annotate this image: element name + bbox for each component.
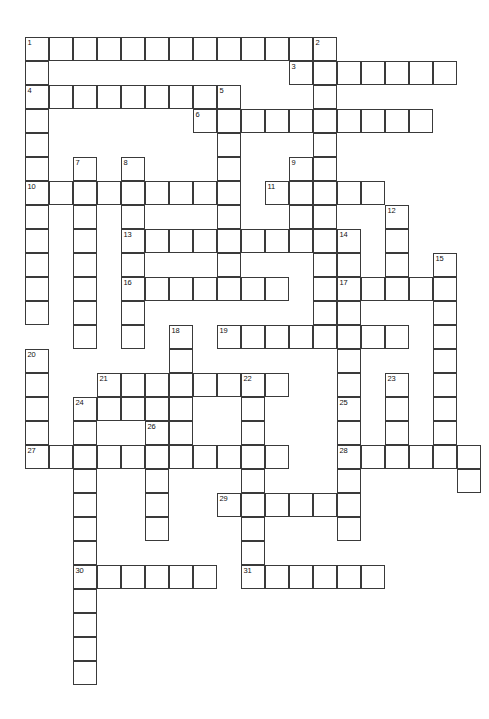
crossword-cell[interactable] <box>289 229 313 253</box>
crossword-cell-numbered-12[interactable]: 12 <box>385 205 409 229</box>
crossword-cell[interactable] <box>337 469 361 493</box>
crossword-cell[interactable] <box>265 109 289 133</box>
crossword-cell-numbered-4[interactable]: 4 <box>25 85 49 109</box>
crossword-cell-numbered-31[interactable]: 31 <box>241 565 265 589</box>
crossword-cell[interactable] <box>337 253 361 277</box>
crossword-cell[interactable] <box>73 325 97 349</box>
crossword-cell[interactable] <box>73 421 97 445</box>
crossword-cell-numbered-2[interactable]: 2 <box>313 37 337 61</box>
crossword-cell[interactable] <box>193 229 217 253</box>
crossword-cell[interactable] <box>25 253 49 277</box>
crossword-cell[interactable] <box>289 205 313 229</box>
crossword-cell[interactable] <box>313 493 337 517</box>
crossword-cell[interactable] <box>289 181 313 205</box>
crossword-cell[interactable] <box>25 421 49 445</box>
crossword-cell[interactable] <box>49 181 73 205</box>
crossword-cell[interactable] <box>289 565 313 589</box>
crossword-cell[interactable] <box>217 373 241 397</box>
crossword-cell-numbered-3[interactable]: 3 <box>289 61 313 85</box>
crossword-cell-numbered-26[interactable]: 26 <box>145 421 169 445</box>
crossword-cell[interactable] <box>145 277 169 301</box>
crossword-cell[interactable] <box>121 325 145 349</box>
crossword-cell[interactable] <box>313 133 337 157</box>
crossword-cell[interactable] <box>121 373 145 397</box>
crossword-cell[interactable] <box>361 325 385 349</box>
crossword-cell[interactable] <box>73 253 97 277</box>
crossword-cell-numbered-27[interactable]: 27 <box>25 445 49 469</box>
crossword-cell[interactable] <box>289 37 313 61</box>
crossword-cell[interactable] <box>73 301 97 325</box>
crossword-cell[interactable] <box>241 37 265 61</box>
crossword-cell[interactable] <box>193 37 217 61</box>
crossword-cell[interactable] <box>433 397 457 421</box>
crossword-cell-numbered-16[interactable]: 16 <box>121 277 145 301</box>
crossword-cell[interactable] <box>169 397 193 421</box>
crossword-cell[interactable] <box>265 277 289 301</box>
crossword-cell[interactable] <box>241 469 265 493</box>
crossword-cell[interactable] <box>433 349 457 373</box>
crossword-cell[interactable] <box>337 61 361 85</box>
crossword-cell[interactable] <box>145 397 169 421</box>
crossword-cell-numbered-17[interactable]: 17 <box>337 277 361 301</box>
crossword-cell[interactable] <box>73 37 97 61</box>
crossword-cell[interactable] <box>289 109 313 133</box>
crossword-cell[interactable] <box>433 445 457 469</box>
crossword-cell[interactable] <box>313 181 337 205</box>
crossword-cell[interactable] <box>73 493 97 517</box>
crossword-cell[interactable] <box>409 277 433 301</box>
crossword-cell[interactable] <box>145 493 169 517</box>
crossword-cell[interactable] <box>241 445 265 469</box>
crossword-cell[interactable] <box>97 37 121 61</box>
crossword-cell[interactable] <box>25 397 49 421</box>
crossword-cell[interactable] <box>217 277 241 301</box>
crossword-cell[interactable] <box>409 445 433 469</box>
crossword-cell[interactable] <box>121 205 145 229</box>
crossword-cell[interactable] <box>385 253 409 277</box>
crossword-cell[interactable] <box>73 277 97 301</box>
crossword-cell-numbered-6[interactable]: 6 <box>193 109 217 133</box>
crossword-cell[interactable] <box>433 61 457 85</box>
crossword-cell[interactable] <box>49 85 73 109</box>
crossword-cell[interactable] <box>433 325 457 349</box>
crossword-cell[interactable] <box>169 85 193 109</box>
crossword-cell[interactable] <box>25 229 49 253</box>
crossword-cell[interactable] <box>193 565 217 589</box>
crossword-cell[interactable] <box>289 493 313 517</box>
crossword-cell[interactable] <box>145 517 169 541</box>
crossword-cell[interactable] <box>25 205 49 229</box>
crossword-cell[interactable] <box>73 661 97 685</box>
crossword-cell[interactable] <box>337 325 361 349</box>
crossword-cell-numbered-24[interactable]: 24 <box>73 397 97 421</box>
crossword-cell[interactable] <box>25 301 49 325</box>
crossword-cell-numbered-9[interactable]: 9 <box>289 157 313 181</box>
crossword-cell[interactable] <box>241 493 265 517</box>
crossword-cell[interactable] <box>217 37 241 61</box>
crossword-cell[interactable] <box>457 445 481 469</box>
crossword-cell[interactable] <box>25 373 49 397</box>
crossword-cell[interactable] <box>337 349 361 373</box>
crossword-cell[interactable] <box>73 445 97 469</box>
crossword-cell[interactable] <box>265 493 289 517</box>
crossword-cell[interactable] <box>217 445 241 469</box>
crossword-cell[interactable] <box>73 613 97 637</box>
crossword-cell[interactable] <box>241 397 265 421</box>
crossword-cell-numbered-13[interactable]: 13 <box>121 229 145 253</box>
crossword-cell-numbered-14[interactable]: 14 <box>337 229 361 253</box>
crossword-cell[interactable] <box>73 517 97 541</box>
crossword-cell[interactable] <box>265 229 289 253</box>
crossword-cell[interactable] <box>457 469 481 493</box>
crossword-cell[interactable] <box>73 181 97 205</box>
crossword-cell[interactable] <box>313 229 337 253</box>
crossword-cell[interactable] <box>169 421 193 445</box>
crossword-cell[interactable] <box>217 205 241 229</box>
crossword-cell-numbered-23[interactable]: 23 <box>385 373 409 397</box>
crossword-cell[interactable] <box>193 277 217 301</box>
crossword-cell-numbered-21[interactable]: 21 <box>97 373 121 397</box>
crossword-cell[interactable] <box>217 157 241 181</box>
crossword-cell-numbered-11[interactable]: 11 <box>265 181 289 205</box>
crossword-cell[interactable] <box>433 301 457 325</box>
crossword-cell[interactable] <box>337 421 361 445</box>
crossword-cell-numbered-15[interactable]: 15 <box>433 253 457 277</box>
crossword-cell[interactable] <box>145 85 169 109</box>
crossword-cell[interactable] <box>169 229 193 253</box>
